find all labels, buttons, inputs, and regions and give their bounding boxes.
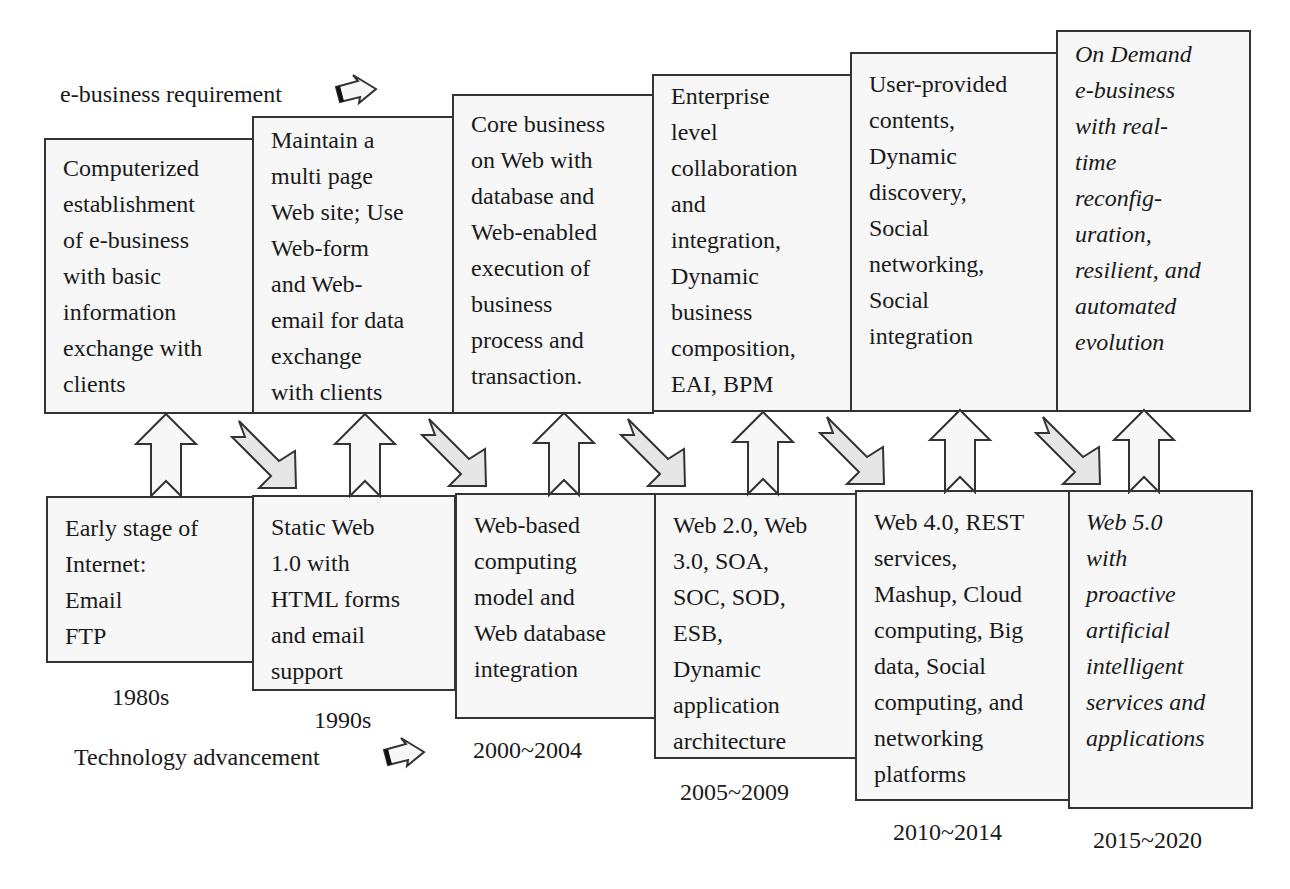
up-block-arrow-icon [930,410,990,492]
up-block-arrow-icon [136,414,196,496]
diagonal-block-arrow-icon [422,419,486,486]
up-block-arrow-icon [1114,410,1174,492]
up-block-arrow-icon [335,414,395,496]
up-block-arrow-icon [733,412,793,494]
diagonal-block-arrow-icon [232,421,296,488]
up-block-arrow-icon [534,413,594,495]
right-block-arrow-icon [384,738,424,766]
diagonal-block-arrow-icon [820,417,884,484]
arrows-layer [0,0,1290,889]
diagonal-block-arrow-icon [1036,417,1100,484]
diagonal-block-arrow-icon [621,419,685,486]
right-block-arrow-icon [336,75,376,103]
